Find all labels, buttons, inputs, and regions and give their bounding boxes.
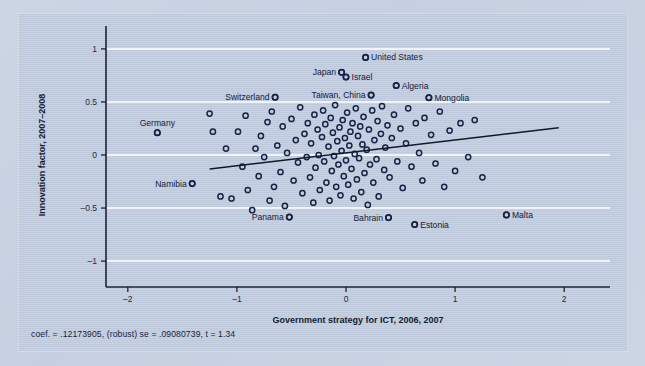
y-tick-label: –0.5 <box>80 203 97 213</box>
data-point <box>326 144 331 149</box>
data-point <box>317 187 322 192</box>
data-point <box>385 123 390 128</box>
point-label: Algeria <box>402 81 429 91</box>
data-point <box>413 121 418 126</box>
data-point <box>313 165 318 170</box>
data-point <box>378 131 383 136</box>
data-point <box>343 158 348 163</box>
data-point <box>322 159 327 164</box>
data-point <box>223 146 228 151</box>
point-label: Switzerland <box>225 92 270 102</box>
y-tick-label: 0 <box>92 150 97 160</box>
data-point <box>338 193 343 198</box>
data-points <box>155 55 509 227</box>
data-point <box>400 185 405 190</box>
data-point <box>330 130 335 135</box>
data-point <box>472 117 477 122</box>
data-point <box>366 127 371 132</box>
x-axis-title: Government strategy for ICT, 2006, 2007 <box>272 315 443 325</box>
data-point <box>321 108 326 113</box>
data-point <box>319 134 324 139</box>
data-point <box>354 177 359 182</box>
data-point <box>337 125 342 130</box>
data-point <box>291 178 296 183</box>
data-point <box>371 180 376 185</box>
data-point <box>334 184 339 189</box>
point-label: Namibia <box>155 179 187 189</box>
data-point <box>340 117 345 122</box>
axis-titles: Government strategy for ICT, 2006, 2007I… <box>37 94 444 325</box>
data-point <box>256 174 261 179</box>
data-point <box>278 169 283 174</box>
data-point <box>389 135 394 140</box>
data-point <box>210 129 215 134</box>
data-point <box>358 124 363 129</box>
data-point <box>235 129 240 134</box>
x-tick-label: 2 <box>562 294 567 304</box>
data-point <box>365 202 370 207</box>
data-point <box>324 180 329 185</box>
data-point <box>360 142 365 147</box>
point-label: Panama <box>252 212 284 222</box>
data-point <box>328 115 333 120</box>
data-point <box>350 121 355 126</box>
point-label: Germany <box>140 118 176 128</box>
data-point <box>480 175 485 180</box>
data-point <box>391 112 396 117</box>
data-point <box>447 128 452 133</box>
data-point <box>342 135 347 140</box>
data-point <box>327 198 332 203</box>
data-point <box>218 194 223 199</box>
data-point <box>311 200 316 205</box>
data-point <box>265 120 270 125</box>
data-point <box>442 184 447 189</box>
data-point <box>348 129 353 134</box>
data-point <box>347 143 352 148</box>
data-point <box>345 110 350 115</box>
point-labels: United StatesJapanIsraelAlgeriaSwitzerla… <box>140 52 534 229</box>
data-point <box>374 157 379 162</box>
x-tick-label: –2 <box>123 294 133 304</box>
point-label: United States <box>371 52 423 62</box>
data-point <box>295 160 300 165</box>
data-point <box>271 184 276 189</box>
data-point <box>409 164 414 169</box>
data-point <box>355 133 360 138</box>
point-label: Taiwan, China <box>312 90 366 100</box>
data-point <box>253 146 258 151</box>
data-point <box>300 191 305 196</box>
data-point <box>429 132 434 137</box>
data-point <box>269 109 274 114</box>
data-point <box>375 119 380 124</box>
data-point <box>302 131 307 136</box>
data-point <box>329 168 334 173</box>
y-tick-label: –1 <box>88 256 98 266</box>
point-label: Estonia <box>420 220 449 230</box>
data-point <box>207 111 212 116</box>
data-point <box>422 115 427 120</box>
regression-footnote: coef. = .12173905, (robust) se = .090807… <box>31 329 235 339</box>
y-tick-label: 1 <box>92 44 97 54</box>
figure-container: –2–1012–1–0.500.51 United StatesJapanIsr… <box>0 0 645 366</box>
plot-svg: –2–1012–1–0.500.51 United StatesJapanIsr… <box>0 0 645 366</box>
data-point <box>323 122 328 127</box>
data-point <box>395 159 400 164</box>
data-point <box>387 175 392 180</box>
data-point <box>433 161 438 166</box>
data-point <box>349 166 354 171</box>
x-tick-label: 1 <box>453 294 458 304</box>
data-point <box>361 114 366 119</box>
y-axis-title: Innovation factor, 2007–2008 <box>37 94 47 217</box>
data-point <box>379 104 384 109</box>
data-point <box>351 196 356 201</box>
data-point <box>398 126 403 131</box>
data-point <box>362 170 367 175</box>
data-point <box>243 113 248 118</box>
data-point <box>245 187 250 192</box>
data-point <box>353 106 358 111</box>
data-point <box>298 105 303 110</box>
point-label: Bahrain <box>353 213 383 223</box>
data-point <box>289 116 294 121</box>
tick-labels: –2–1012–1–0.500.51 <box>80 44 566 304</box>
data-point <box>267 198 272 203</box>
